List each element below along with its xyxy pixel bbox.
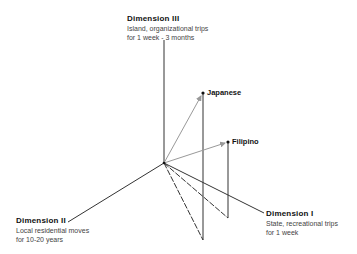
dimension-2-title: Dimension II [16, 216, 89, 225]
dimension-2-desc-line-2: for 10-20 years [16, 236, 89, 245]
point-filipino [226, 140, 229, 143]
dimension-1-description: State, recreational trips for 1 week [266, 220, 338, 237]
dimension-1-desc-line-1: State, recreational trips [266, 220, 338, 229]
dimension-3-desc-line-1: Island, organizational trips [127, 25, 208, 34]
dimension-3-title: Dimension III [127, 14, 208, 23]
origin-point [163, 162, 166, 165]
point-label-japanese: Japanese [207, 88, 241, 97]
dimension-2-description: Local residential moves for 10-20 years [16, 227, 89, 244]
projection-line-japanese [164, 163, 203, 240]
dimension-3-description: Island, organizational trips for 1 week … [127, 25, 208, 42]
point-japanese [201, 91, 204, 94]
dimension-3-label: Dimension III Island, organizational tri… [127, 14, 208, 42]
dimension-2-desc-line-1: Local residential moves [16, 227, 89, 236]
axis-dimension-2 [68, 163, 164, 222]
point-label-filipino: Filipino [232, 137, 259, 146]
dimension-1-title: Dimension I [266, 209, 338, 218]
diagram-canvas: Dimension III Island, organizational tri… [0, 0, 357, 254]
dimension-1-desc-line-2: for 1 week [266, 229, 338, 238]
dimension-2-label: Dimension II Local residential moves for… [16, 216, 89, 244]
dimension-1-label: Dimension I State, recreational trips fo… [266, 209, 338, 237]
dimension-3-desc-line-2: for 1 week - 3 months [127, 34, 208, 43]
